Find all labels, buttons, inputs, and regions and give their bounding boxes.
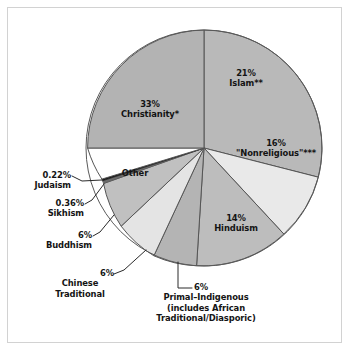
slice-label-sikhism: 0.36% Sikhism: [16, 198, 84, 219]
slice-label-other: Other: [113, 168, 157, 178]
slice-label-primal-line2: (includes African: [132, 303, 280, 313]
slice-label-other-name: Other: [113, 168, 157, 178]
slice-label-chinese-line1: Chinese: [46, 278, 114, 288]
slice-label-buddhism-pct: 6%: [22, 230, 92, 240]
slice-label-buddhism-name: Buddhism: [22, 240, 92, 250]
slice-label-primal-line3: Traditional/Diasporic): [132, 313, 280, 323]
leader-line-judaism: [72, 176, 102, 181]
pie-chart-figure: 21% Islam** 16% "Nonreligious"*** 14% Hi…: [0, 0, 350, 351]
slice-label-christianity: 33% Christianity*: [106, 99, 194, 120]
slice-label-christianity-pct: 33%: [106, 99, 194, 109]
slice-label-judaism-pct: 0.22%: [8, 170, 71, 180]
slice-label-judaism: 0.22% Judaism: [8, 170, 71, 191]
slice-label-sikhism-name: Sikhism: [16, 208, 84, 218]
slice-label-nonreligious-pct: 16%: [222, 138, 330, 148]
pie-slice-christianity[interactable]: [88, 30, 204, 148]
slice-label-islam-name: Islam**: [215, 78, 277, 88]
slice-label-buddhism: 6% Buddhism: [22, 230, 92, 251]
leader-line-buddhism: [93, 215, 114, 236]
slice-label-primal-indigenous: 6% Primal–Indigenous (includes African T…: [132, 282, 280, 323]
slice-label-hinduism-pct: 14%: [205, 213, 267, 223]
slice-label-christianity-name: Christianity*: [106, 109, 194, 119]
slice-label-chinese-line2: Traditional: [46, 289, 114, 299]
slice-label-chinese-pct: 6%: [46, 268, 114, 278]
slice-label-chinese-traditional: 6% Chinese Traditional: [46, 268, 114, 299]
slice-label-hinduism-name: Hinduism: [205, 223, 267, 233]
slice-label-primal-pct: 6%: [132, 282, 280, 292]
leader-line-chinese: [114, 250, 146, 274]
slice-label-primal-line1: Primal–Indigenous: [132, 292, 280, 302]
slice-label-nonreligious: 16% "Nonreligious"***: [222, 138, 330, 159]
slice-label-judaism-name: Judaism: [8, 180, 71, 190]
slice-label-nonreligious-name: "Nonreligious"***: [222, 148, 330, 158]
slice-label-islam: 21% Islam**: [215, 68, 277, 89]
leader-line-sikhism: [85, 184, 104, 204]
slice-label-islam-pct: 21%: [215, 68, 277, 78]
slice-label-sikhism-pct: 0.36%: [16, 198, 84, 208]
slice-label-hinduism: 14% Hinduism: [205, 213, 267, 234]
